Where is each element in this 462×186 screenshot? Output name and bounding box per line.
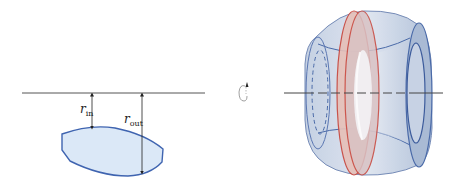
region-panel: rin rout [22,93,205,176]
r-in-label: rin [80,102,93,118]
region-shape [62,127,163,176]
solid-of-revolution-diagram: rin rout [0,0,462,186]
solid-of-revolution [284,11,443,175]
rotate-around-axis-icon [239,82,249,101]
r-out-label: rout [124,112,144,128]
